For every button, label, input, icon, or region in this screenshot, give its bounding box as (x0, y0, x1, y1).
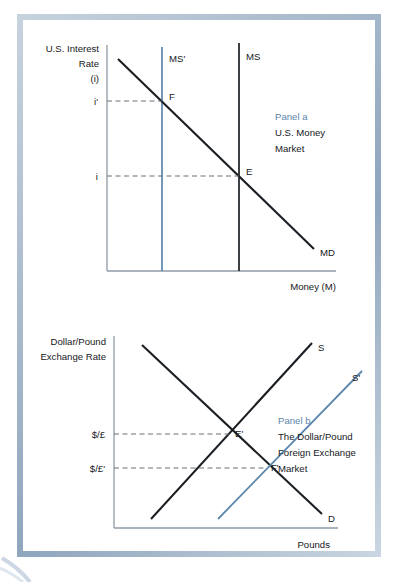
panel-a-name-line2: Market (275, 143, 305, 154)
panel-a-y-axis-label-line2: Rate (79, 58, 99, 69)
panel-a-ms-label: MS (246, 51, 260, 62)
panel-a-point-E-label: E (246, 166, 252, 177)
panel-b-group: Dollar/Pound Exchange Rate Pounds $/£ $/… (40, 336, 362, 550)
panel-b-d-label: D (328, 513, 335, 524)
panel-a-y-axis-label-line3: (i) (90, 73, 99, 84)
panel-b-ytick-dollar-pound-prime: $/£' (90, 463, 105, 474)
panel-a-md-label: MD (320, 247, 335, 258)
panel-a-name-line1: U.S. Money (275, 127, 325, 138)
panel-a-y-axis-label-line1: U.S. Interest (46, 43, 100, 54)
panel-b-x-axis-label: Pounds (297, 539, 330, 550)
panel-a-md-curve (118, 59, 314, 249)
panel-a-group: U.S. Interest Rate (i) Money (M) i' i MS… (46, 43, 336, 292)
panel-b-s-prime-curve (218, 371, 362, 519)
panel-b-s-label: S (318, 342, 324, 353)
panel-b-name-line1: The Dollar/Pound (278, 431, 353, 442)
panel-a-ms-prime-label: MS' (169, 53, 185, 64)
panel-a-ytick-i: i (96, 171, 98, 182)
economics-diagram: U.S. Interest Rate (i) Money (M) i' i MS… (0, 0, 420, 584)
panel-b-name-line3: Market (278, 463, 308, 474)
panel-b-ytick-dollar-pound: $/£ (92, 429, 106, 440)
panel-a-ytick-i-prime: i' (94, 96, 98, 107)
panel-b-s-prime-label: S' (352, 372, 360, 383)
panel-b-y-axis-label-line2: Exchange Rate (40, 351, 106, 362)
panel-a-point-F-label: F (169, 91, 175, 102)
figure-root: U.S. Interest Rate (i) Money (M) i' i MS… (0, 0, 420, 584)
panel-b-tag: Panel b (278, 415, 311, 426)
panel-a-tag: Panel a (275, 111, 308, 122)
panel-a-x-axis-label: Money (M) (290, 281, 336, 292)
panel-b-point-E-prime-label: E' (235, 428, 243, 439)
panel-b-y-axis-label-line1: Dollar/Pound (51, 336, 106, 347)
panel-b-name-line2: Foreign Exchange (278, 447, 356, 458)
